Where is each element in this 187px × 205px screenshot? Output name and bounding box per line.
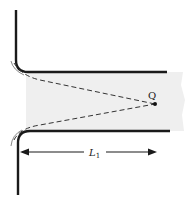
length-label-subscript: 1 bbox=[96, 152, 100, 160]
upper-wall bbox=[16, 10, 167, 72]
point-q-label: Q bbox=[148, 90, 156, 101]
channel-shading bbox=[26, 72, 185, 131]
arrowhead-left-icon bbox=[20, 149, 29, 156]
length-label: L1 bbox=[88, 147, 100, 160]
channel-diagram: Q L1 bbox=[0, 0, 187, 205]
point-q-marker bbox=[153, 102, 157, 106]
lower-wall bbox=[18, 131, 170, 195]
arrowhead-right-icon bbox=[148, 149, 157, 156]
